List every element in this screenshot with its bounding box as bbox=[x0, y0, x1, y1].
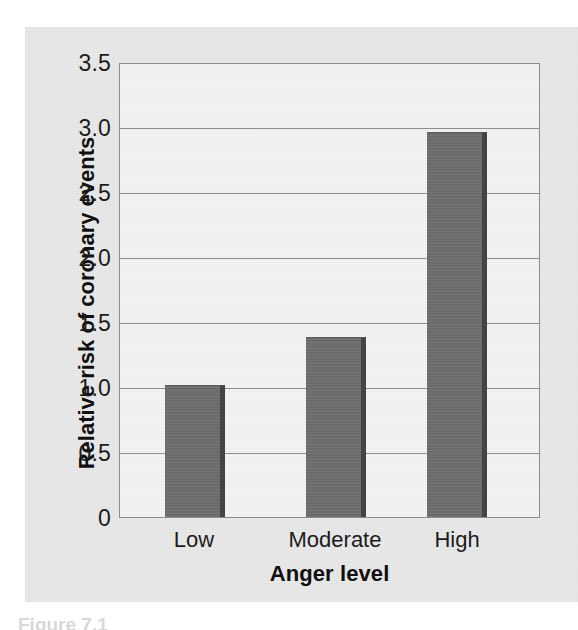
y-tick-1_0: 1.0 bbox=[55, 377, 111, 400]
figure-panel: Relative risk of coronary events 0 0.5 1… bbox=[25, 27, 578, 602]
y-axis-tick-labels: 0 0.5 1.0 1.5 2.0 2.5 3.0 3.5 bbox=[47, 63, 111, 518]
x-category-high: High bbox=[434, 527, 479, 553]
y-tick-0: 0 bbox=[55, 507, 111, 530]
gridline-3_0 bbox=[120, 128, 539, 129]
bar-moderate bbox=[306, 337, 366, 517]
y-tick-2_0: 2.0 bbox=[55, 247, 111, 270]
y-tick-3_5: 3.5 bbox=[55, 52, 111, 75]
x-category-moderate: Moderate bbox=[289, 527, 382, 553]
x-category-low: Low bbox=[174, 527, 214, 553]
bar-high bbox=[427, 132, 487, 517]
figure-caption: Figure 7.1 bbox=[18, 614, 108, 630]
y-tick-1_5: 1.5 bbox=[55, 312, 111, 335]
y-tick-2_5: 2.5 bbox=[55, 182, 111, 205]
plot-area bbox=[119, 63, 540, 518]
y-tick-3_0: 3.0 bbox=[55, 117, 111, 140]
scanned-figure-page: Relative risk of coronary events 0 0.5 1… bbox=[0, 0, 578, 630]
bar-chart: Relative risk of coronary events 0 0.5 1… bbox=[25, 27, 578, 602]
x-axis-title: Anger level bbox=[119, 561, 540, 587]
y-tick-0_5: 0.5 bbox=[55, 442, 111, 465]
bar-low bbox=[165, 385, 225, 517]
